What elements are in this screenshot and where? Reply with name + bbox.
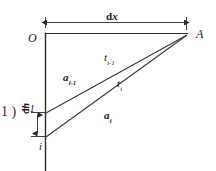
apex-label: A — [196, 28, 203, 40]
a-sub-upper: i-1 — [69, 79, 77, 86]
ray-upper-path-label: ti-1 — [104, 52, 115, 66]
t-sub-upper: i-1 — [107, 59, 115, 66]
dx-dimension-label: dx — [106, 11, 118, 22]
ray-lower-path-label: ti — [117, 78, 122, 92]
ray-lower-angle-label: ai — [104, 110, 111, 124]
caption-fragment: 1 ) — [1, 105, 16, 119]
layer-tick-label-lower: i — [39, 142, 42, 153]
dx-var-glyph: x — [112, 10, 118, 22]
a-sub-lower: i — [110, 117, 112, 124]
t-sub-lower: i — [120, 85, 122, 92]
origin-label: O — [28, 32, 37, 44]
ray-geometry-diagram — [0, 0, 216, 171]
a-base-upper: a — [63, 71, 69, 83]
layer-tick-label-upper: i-1 — [23, 104, 35, 115]
a-base-lower: a — [104, 109, 110, 121]
ray-upper-angle-label: ai-1 — [63, 72, 76, 86]
figure-root: O A dx dh i-1 i ti-1 ti ai-1 ai 1 ) — [0, 0, 216, 171]
